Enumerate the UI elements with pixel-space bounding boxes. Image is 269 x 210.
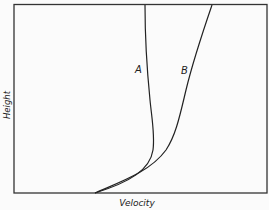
curve-a xyxy=(95,5,154,193)
curve-b xyxy=(95,5,212,193)
curve-b-label: B xyxy=(181,65,188,76)
x-axis-label: Velocity xyxy=(119,198,155,208)
plot-frame xyxy=(14,5,267,194)
y-axis-label: Height xyxy=(2,90,12,119)
curve-a-label: A xyxy=(134,64,142,75)
velocity-height-diagram: A B Velocity Height xyxy=(0,0,269,210)
